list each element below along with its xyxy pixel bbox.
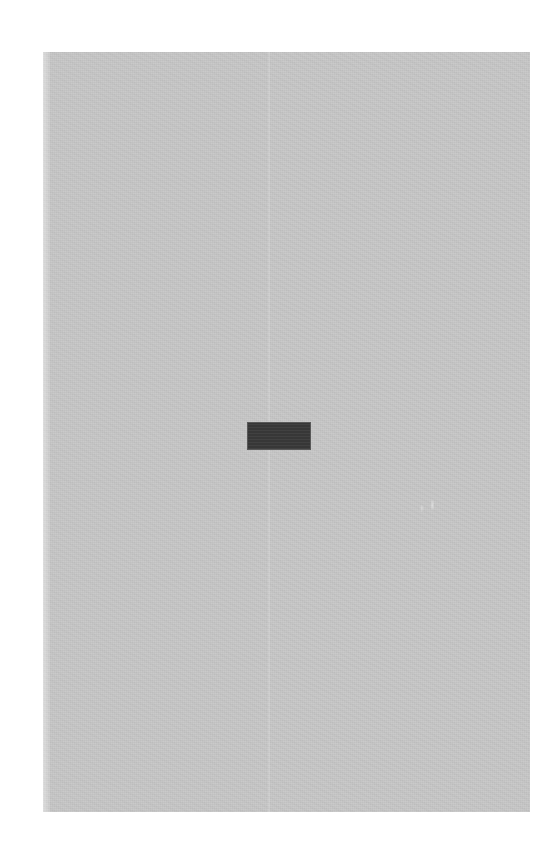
light-speck-artifact (417, 496, 439, 516)
dark-block-surface (248, 423, 310, 449)
screen-canvas (0, 0, 542, 862)
dark-block[interactable] (247, 422, 311, 450)
content-panel[interactable] (43, 52, 530, 812)
panel-left-edge-highlight (43, 52, 50, 812)
